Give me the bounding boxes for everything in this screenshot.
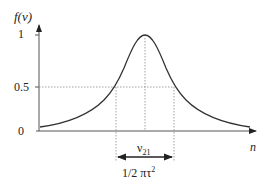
center-label: ν21	[137, 141, 150, 157]
width-label: 1/2 πτ2	[122, 165, 155, 180]
y-tick-label-1: 1	[18, 27, 24, 41]
y-tick-label-0: 0	[18, 124, 24, 138]
x-axis-label: n	[250, 140, 256, 154]
lorentzian-chart: f(ν) 1 0.5 0 n ν21 1/2 πτ2	[0, 0, 270, 186]
y-axis-label: f(ν)	[14, 9, 32, 24]
y-tick-label-05: 0.5	[14, 80, 29, 94]
